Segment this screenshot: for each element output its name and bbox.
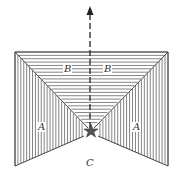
arrowhead-icon [87,6,94,15]
label-a-right: A [132,122,141,132]
label-a-left: A [37,122,46,132]
label-b-left: B [63,64,72,74]
label-c-floor: C [85,158,95,168]
label-b-right: B [103,64,112,74]
